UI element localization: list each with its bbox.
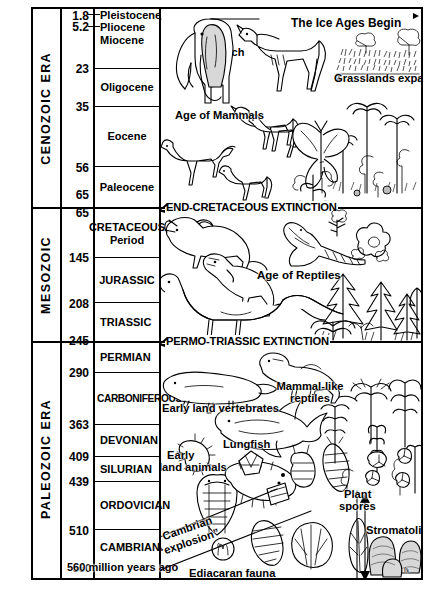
chart-outer-frame: [31, 7, 423, 580]
credit-mark: ℞: [404, 567, 409, 573]
geological-time-scale-chart: CENOZOIC ERA MESOZOIC PALEOZOIC ERA 1.8 …: [0, 0, 431, 595]
